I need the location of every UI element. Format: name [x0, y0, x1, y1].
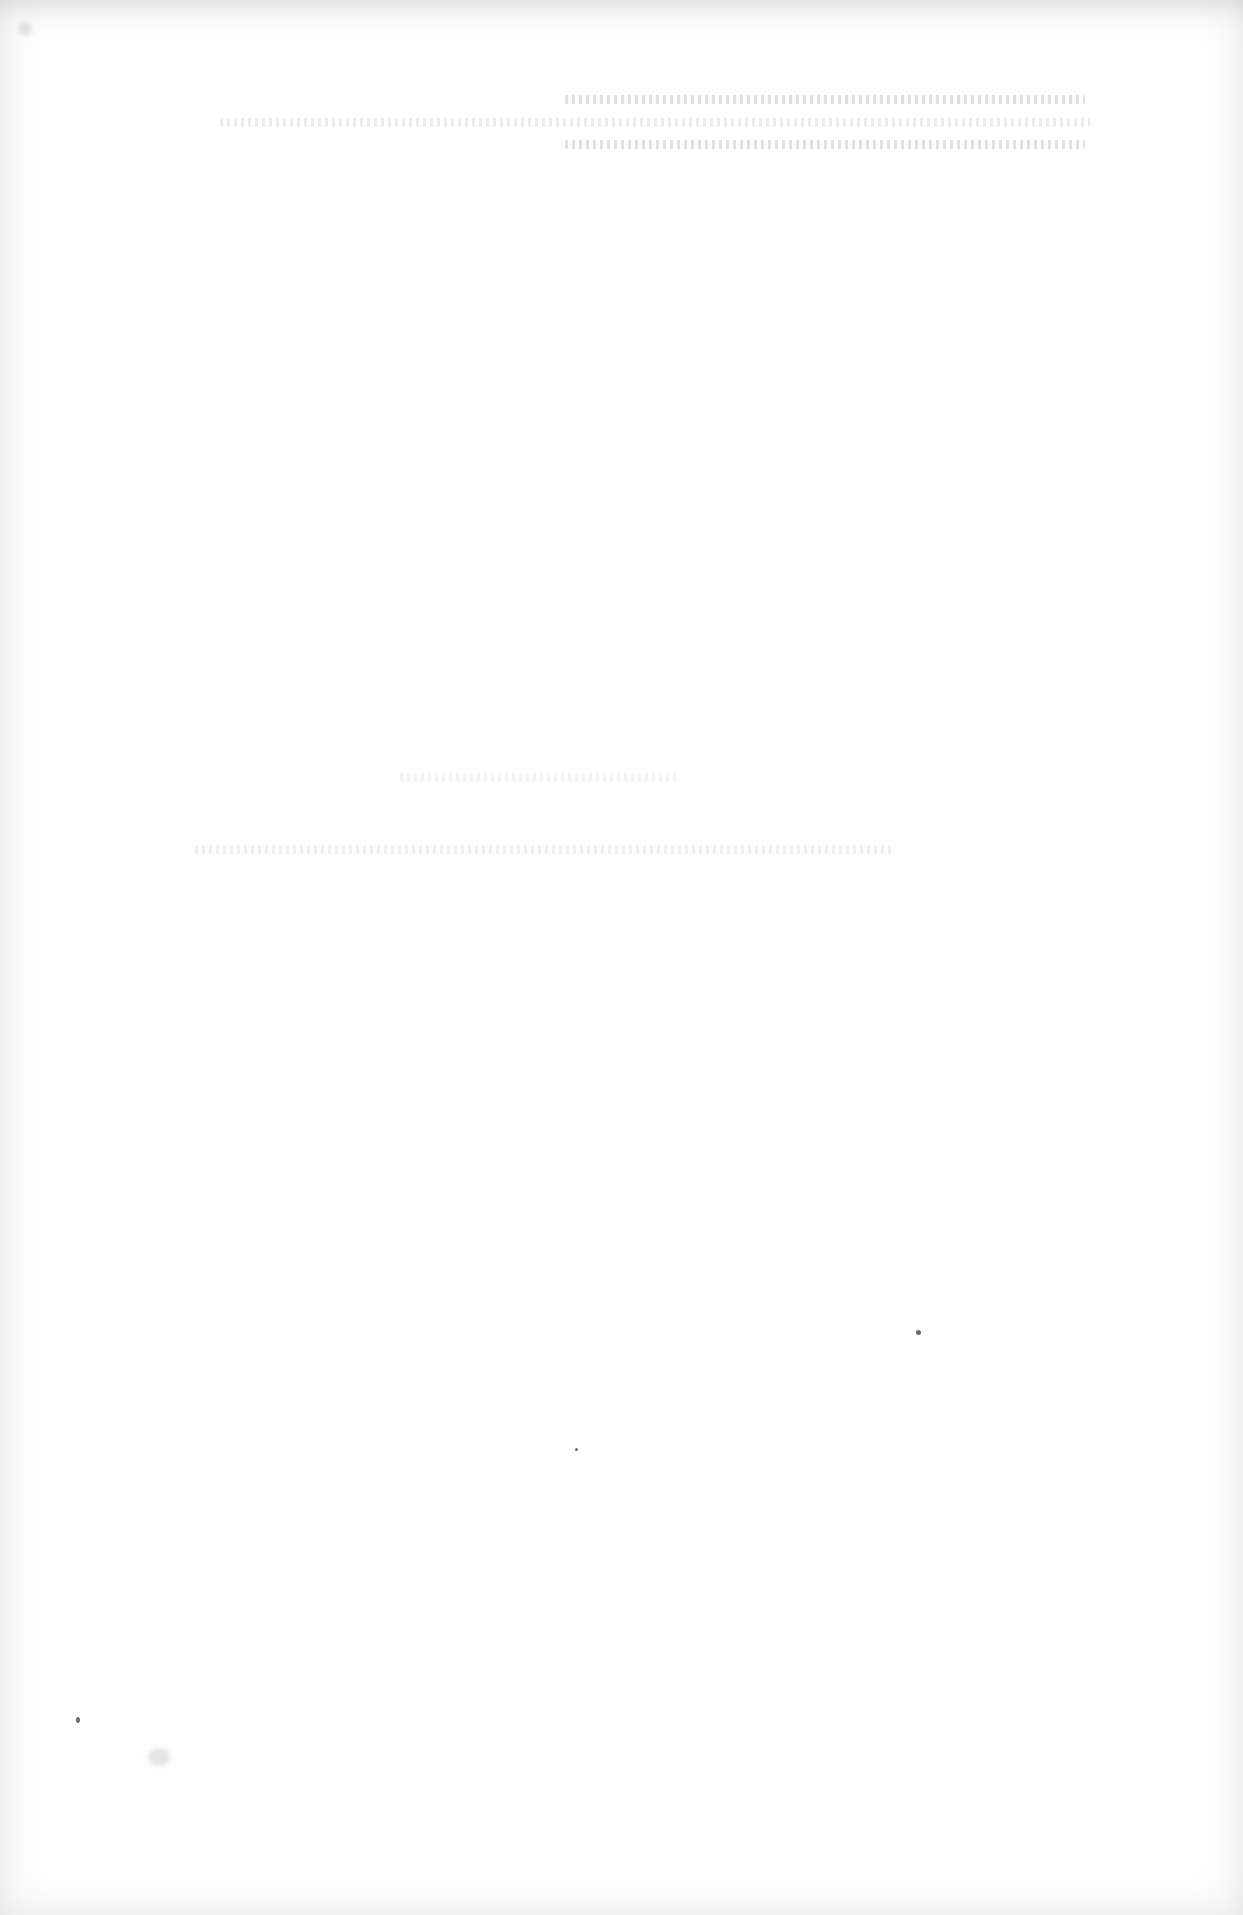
ink-speck [76, 1717, 80, 1723]
bleed-through-line [400, 773, 680, 782]
smudge-mark [148, 1748, 170, 1766]
bleed-through-line [220, 118, 1090, 127]
ink-speck [916, 1330, 921, 1335]
blank-paper-page [0, 0, 1243, 1915]
bleed-through-line [565, 95, 1085, 104]
smudge-mark [18, 22, 32, 36]
ink-speck [575, 1448, 578, 1451]
bleed-through-line [195, 845, 895, 854]
bleed-through-line [565, 140, 1085, 149]
